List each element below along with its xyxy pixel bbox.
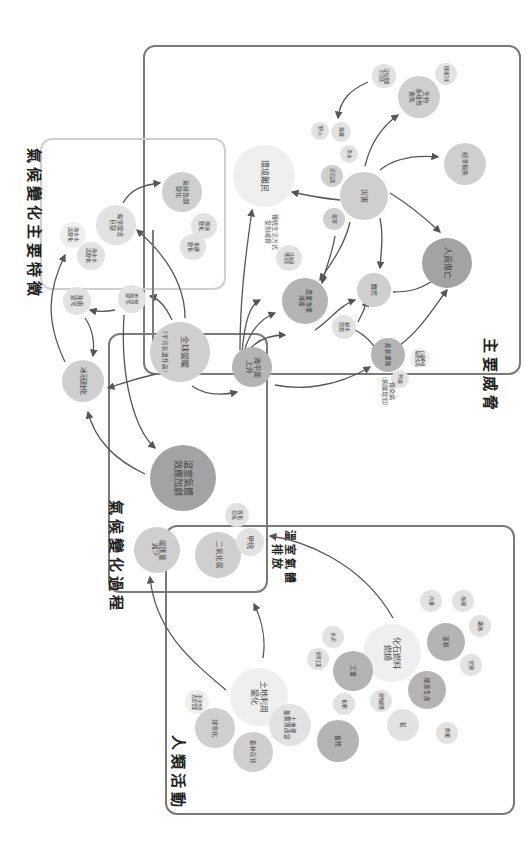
node-respiratory: 心臟呼吸 系統疾病 — [410, 348, 430, 368]
node-global-warming: 全球變暖 （平均氣溫升高） — [150, 322, 210, 382]
section-title-human: 人類活動 — [169, 735, 190, 811]
node-sea-level-rise: 海平面 上升 — [232, 347, 272, 387]
node-coast-erosion: 沿海濕 地消失 — [276, 245, 302, 271]
section-title-process: 氣候變化過程 — [107, 500, 128, 614]
node-urbanisation: 城市化 — [195, 708, 235, 748]
node-industry: 工業 — [333, 651, 373, 691]
node-chemical: 化學工業 — [307, 648, 329, 670]
node-energy: 能源生產 — [408, 671, 446, 709]
node-waste: 廢物處理 — [370, 690, 392, 712]
node-shipping: 海運 — [452, 590, 474, 612]
node-impervious: 不可滲透 表面增加 — [185, 690, 209, 714]
section-title-features: 氣候變化主要特徵 — [25, 148, 46, 300]
global-warming-sub: （平均氣溫升高） — [163, 328, 169, 376]
label-lifestyle-change: 傳統生活方式 受到威脅 — [264, 204, 278, 260]
section-title-ghg: 溫室氣體 排放 — [269, 528, 294, 588]
node-season-change: 季節 變化 — [180, 234, 206, 260]
node-hunger: 饑荒 — [357, 273, 391, 307]
node-land-cover: 土地覆 蓋類別改變 — [269, 704, 311, 746]
node-livestock: 畜牧 — [317, 720, 359, 762]
node-carbon-sink: 碳匯量 減少 — [134, 527, 180, 573]
label-vector-disease: 傳染病 （病媒增加） — [381, 373, 395, 409]
node-storm: 風暴 — [331, 122, 351, 142]
node-fertiliser: 化肥 — [333, 693, 355, 715]
section-title-threats: 主要威脅 — [481, 338, 502, 414]
node-water-shortage: 缺水 問題 — [332, 315, 356, 339]
node-sea-level-change: 海水水 溫變化 — [77, 242, 105, 270]
node-env-refugees: 環境難民 — [233, 145, 295, 207]
node-precip-change: 降雨 變化 — [63, 287, 91, 315]
global-warming-label: 全球變暖 — [180, 336, 189, 368]
node-car: 汽車 — [420, 590, 442, 612]
node-fire: 野火 — [311, 122, 329, 140]
node-ice-melt: 冰冠融化 — [62, 360, 104, 402]
node-habitat-loss: 沒有適應 的消失 — [372, 64, 396, 88]
node-extreme-weather: 氣候急劇 變化 — [162, 172, 202, 212]
node-agri-fishery: 農業漁業 減產 — [282, 278, 328, 324]
node-biodiversity: 生物 多樣性 喪失 — [398, 76, 440, 118]
node-ocean-current: 海洋環流 巨變 — [96, 205, 136, 245]
node-heating: 供暖 — [436, 722, 458, 744]
node-aviation: 空運 — [460, 654, 482, 676]
node-nitrous-oxide: 氧化 亞氮 — [225, 503, 249, 527]
node-landslide: 泥石流 — [321, 165, 343, 187]
node-co2: 二氧化碳 — [195, 532, 241, 578]
node-greenhouse-effect: 溫室氣體 效應加劇 — [150, 445, 216, 511]
node-cloud-change: 雲層 變化 — [118, 285, 146, 313]
node-cement: 水泥 — [322, 626, 344, 648]
node-rail: 鐵路 — [469, 615, 491, 637]
node-drought: 乾旱 — [323, 208, 345, 230]
node-flood: 洪水 — [340, 145, 358, 163]
node-economic-loss: 經濟損失 — [444, 143, 486, 185]
node-deforestation: 森林砍伐 — [233, 732, 273, 772]
node-rice: 稻 — [387, 709, 419, 741]
node-disease: 疾病擴散 — [371, 338, 405, 372]
node-disaster: 災害 — [340, 172, 388, 220]
node-human-death: 人員傷亡 — [422, 238, 472, 288]
node-methane: 甲烷 — [236, 528, 264, 556]
node-coral: 珊瑚白化 — [435, 63, 457, 85]
node-transport: 運輸 — [427, 623, 465, 661]
